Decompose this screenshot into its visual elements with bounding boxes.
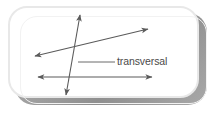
geometry-diagram bbox=[0, 0, 217, 113]
transversal-line bbox=[66, 15, 80, 95]
screenshot-root: transversal bbox=[0, 0, 217, 113]
parallel-line-upper bbox=[35, 29, 148, 56]
transversal-label: transversal bbox=[117, 55, 167, 67]
